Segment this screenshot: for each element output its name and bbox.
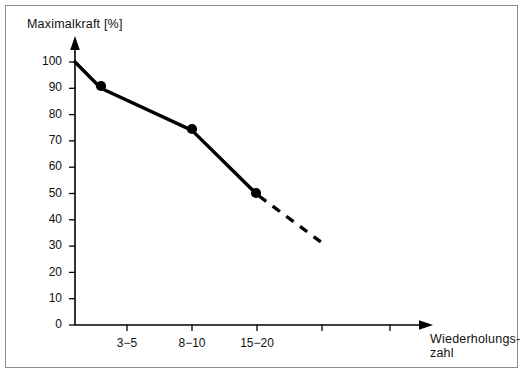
x-axis-arrow-icon <box>419 320 433 330</box>
x-tick-label-15-20: 15−20 <box>222 336 292 350</box>
y-tick-label-20: 20 <box>36 265 62 279</box>
y-tick-label-10: 10 <box>36 291 62 305</box>
data-point-marker <box>187 124 197 134</box>
x-axis <box>75 320 433 330</box>
y-tick-label-50: 50 <box>36 186 62 200</box>
data-line-dashed <box>259 196 321 242</box>
x-tick-label-8-10: 8−10 <box>157 336 227 350</box>
x-axis-ticks <box>127 325 390 331</box>
y-tick-label-30: 30 <box>36 238 62 252</box>
y-axis <box>70 36 80 325</box>
chart-plot-area <box>0 0 530 380</box>
x-axis-title: Wiederholungs- zahl <box>430 332 520 360</box>
x-axis-title-line1: Wiederholungs- <box>430 332 520 346</box>
data-point-marker <box>96 81 106 91</box>
y-tick-label-80: 80 <box>36 107 62 121</box>
y-axis-title: Maximalkraft [%] <box>27 17 123 31</box>
y-tick-label-70: 70 <box>36 133 62 147</box>
y-tick-label-40: 40 <box>36 212 62 226</box>
y-axis-ticks <box>69 62 75 325</box>
y-tick-label-0: 0 <box>36 317 62 331</box>
y-axis-arrow-icon <box>70 36 80 50</box>
x-axis-title-line2: zahl <box>430 346 520 360</box>
y-tick-label-60: 60 <box>36 159 62 173</box>
y-tick-label-90: 90 <box>36 80 62 94</box>
x-tick-label-3-5: 3−5 <box>92 336 162 350</box>
data-point-marker <box>251 188 261 198</box>
chart-figure: Maximalkraft [%] Wiederholungs- zahl 100… <box>0 0 530 380</box>
y-tick-label-100: 100 <box>36 54 62 68</box>
